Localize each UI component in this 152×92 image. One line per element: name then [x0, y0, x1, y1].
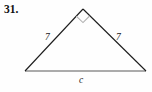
base-length-label: c	[79, 75, 83, 85]
triangle-left-leg	[25, 9, 83, 71]
triangle-diagram	[0, 0, 152, 92]
right-leg-length-label: 7	[116, 32, 121, 42]
triangle-right-leg	[83, 9, 146, 71]
exercise-figure-page: 31. 7 7 c	[0, 0, 152, 92]
right-angle-marker-icon	[76, 16, 89, 23]
left-leg-length-label: 7	[45, 32, 50, 42]
